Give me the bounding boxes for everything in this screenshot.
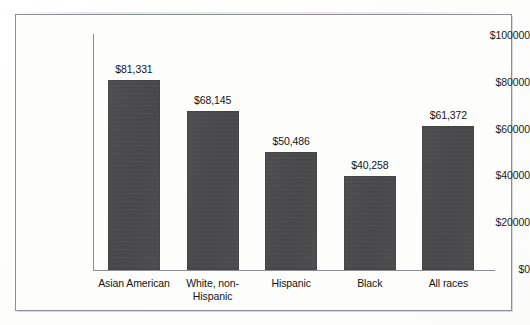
bar bbox=[187, 111, 239, 270]
x-axis-category-label-line: Hispanic bbox=[165, 290, 261, 303]
bar bbox=[344, 176, 396, 270]
x-axis-category-label-line: All races bbox=[400, 277, 496, 290]
x-axis-line bbox=[93, 270, 495, 271]
chart-page: $0$20000$40000$60000$80000$100000 $81,33… bbox=[0, 0, 530, 325]
bar-chart-plot-area: $0$20000$40000$60000$80000$100000 $81,33… bbox=[0, 0, 530, 325]
bar-value-label: $68,145 bbox=[168, 94, 258, 106]
bar-value-label: $61,372 bbox=[403, 109, 493, 121]
bar-value-label: $50,486 bbox=[246, 135, 336, 147]
bar-value-label: $81,331 bbox=[89, 63, 179, 75]
bar bbox=[108, 80, 160, 270]
y-axis-tick-label: $100000 bbox=[442, 29, 530, 41]
bar bbox=[422, 126, 474, 270]
y-axis-tick-label: $80000 bbox=[442, 76, 530, 88]
bar bbox=[265, 152, 317, 270]
x-axis-category-label: All races bbox=[400, 277, 496, 290]
bar-value-label: $40,258 bbox=[325, 159, 415, 171]
